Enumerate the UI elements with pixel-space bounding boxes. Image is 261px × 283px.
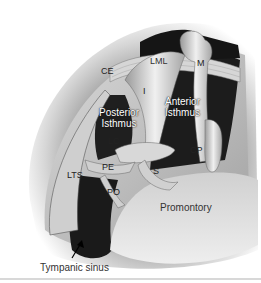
label-lml: LML (150, 57, 168, 66)
label-lc: LC (108, 137, 120, 146)
label-promontory: Promontory (160, 203, 212, 213)
label-pe: PE (102, 163, 114, 172)
label-s: S (153, 167, 159, 176)
label-posterior-isthmus: Posterior Isthmus (99, 107, 139, 129)
anterior-isthmus-line1: Anterior (165, 96, 200, 107)
label-po: PO (107, 188, 120, 197)
posterior-isthmus-line1: Posterior (99, 107, 139, 118)
bottom-divider (0, 278, 261, 280)
label-m: M (197, 59, 205, 68)
label-cp: CP (190, 146, 203, 155)
posterior-isthmus-line2: Isthmus (99, 118, 139, 129)
label-tympanic-sinus: Tympanic sinus (40, 263, 109, 273)
label-i: I (143, 87, 146, 96)
anterior-isthmus-line2: Isthmus (165, 107, 200, 118)
label-ce: CE (101, 67, 114, 76)
middle-ear-illustration (0, 0, 261, 283)
label-anterior-isthmus: Anterior Isthmus (165, 96, 200, 118)
label-lts: LTS (67, 171, 83, 180)
